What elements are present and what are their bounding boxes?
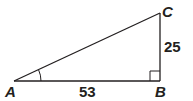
- side-ab-length: 53: [79, 83, 96, 100]
- angle-a-arc: [39, 70, 42, 81]
- triangle-diagram: A B C 53 25: [0, 0, 193, 101]
- side-bc-length: 25: [164, 38, 181, 55]
- right-angle-mark: [150, 71, 160, 81]
- side-ac: [14, 13, 160, 81]
- triangle-abc: [14, 13, 160, 81]
- vertex-a-label: A: [4, 83, 16, 100]
- vertex-c-label: C: [162, 3, 174, 20]
- vertex-b-label: B: [155, 83, 166, 100]
